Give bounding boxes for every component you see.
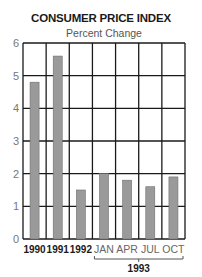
group-label: 1993 — [128, 263, 151, 274]
bars — [30, 56, 178, 239]
bar-apr — [123, 180, 132, 239]
category-group-brackets: 1993 — [94, 256, 183, 274]
group-bracket — [94, 256, 183, 259]
bar-chart: 0123456 199019911992JANAPRJULOCT 1993 — [0, 0, 202, 277]
y-tick-label: 6 — [13, 37, 19, 49]
y-tick-label: 4 — [13, 102, 19, 114]
bar-jan — [100, 174, 109, 239]
x-tick-label: OCT — [162, 243, 185, 255]
y-tick-label: 2 — [13, 168, 19, 180]
bar-oct — [169, 177, 178, 239]
x-tick-label: JUL — [141, 243, 160, 255]
y-axis-ticks: 0123456 — [13, 37, 19, 245]
x-axis-labels: 199019911992JANAPRJULOCT — [23, 243, 185, 255]
y-tick-label: 0 — [13, 233, 19, 245]
x-tick-label: 1990 — [23, 244, 46, 255]
y-tick-label: 1 — [13, 200, 19, 212]
bar-jul — [146, 187, 155, 239]
x-tick-label: APR — [116, 243, 138, 255]
x-tick-label: 1991 — [47, 244, 70, 255]
bar-1991 — [53, 56, 62, 239]
y-tick-label: 5 — [13, 70, 19, 82]
x-tick-label: JAN — [94, 243, 114, 255]
bar-1990 — [30, 82, 39, 239]
y-tick-label: 3 — [13, 135, 19, 147]
bar-1992 — [76, 190, 85, 239]
x-tick-label: 1992 — [70, 244, 93, 255]
